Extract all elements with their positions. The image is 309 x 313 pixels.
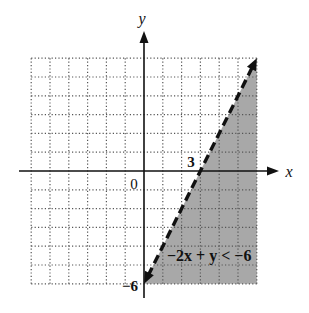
x-axis-arrow-icon bbox=[267, 167, 279, 176]
x-axis-label: x bbox=[284, 163, 292, 180]
origin-label: 0 bbox=[130, 176, 138, 192]
inequality-graph: y x 0 3 −6 −2x + y < −6 bbox=[0, 0, 309, 313]
inequality-label: −2x + y < −6 bbox=[167, 247, 251, 265]
y-axis-arrow-icon bbox=[140, 31, 149, 43]
x-intercept-label: 3 bbox=[187, 154, 195, 170]
y-intercept-label: −6 bbox=[122, 278, 139, 294]
y-axis-label: y bbox=[136, 10, 146, 28]
